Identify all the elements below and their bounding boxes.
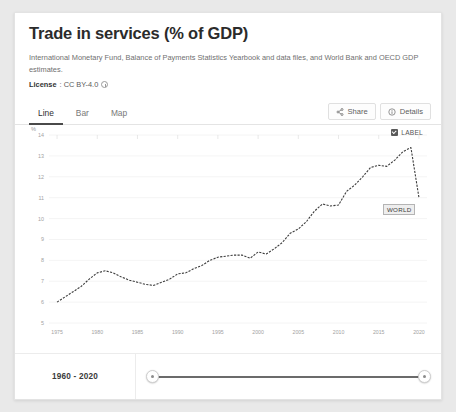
chart-container: % LABEL 141312111098765 1975198019851990… xyxy=(25,125,431,349)
series-label-world: WORLD xyxy=(383,204,416,215)
svg-text:11: 11 xyxy=(38,195,44,201)
label-toggle-text: LABEL xyxy=(401,129,423,136)
x-tick-labels: 1975198019851990199520002005201020152020 xyxy=(51,329,425,335)
svg-text:8: 8 xyxy=(41,257,44,263)
info-icon[interactable] xyxy=(101,81,108,88)
grid-lines xyxy=(49,135,427,323)
page-root: Trade in services (% of GDP) Internation… xyxy=(0,0,456,412)
svg-text:2010: 2010 xyxy=(333,329,345,335)
indicator-card: Trade in services (% of GDP) Internation… xyxy=(14,12,442,400)
card-actions: Share Details xyxy=(328,103,431,124)
svg-text:1985: 1985 xyxy=(132,329,144,335)
svg-text:1995: 1995 xyxy=(212,329,224,335)
svg-text:13: 13 xyxy=(38,153,44,159)
slider-handle-end[interactable] xyxy=(418,370,431,383)
details-button[interactable]: Details xyxy=(380,103,431,120)
source-note: International Monetary Fund, Balance of … xyxy=(29,52,427,75)
checkbox-checked-icon[interactable] xyxy=(391,129,398,136)
slider-handle-start[interactable] xyxy=(146,370,159,383)
tab-map[interactable]: Map xyxy=(100,108,138,124)
tab-bar[interactable]: Bar xyxy=(65,108,100,124)
license-row: License : CC BY-4.0 xyxy=(29,80,427,89)
time-range-label: 1960 - 2020 xyxy=(15,372,135,381)
y-axis-unit: % xyxy=(31,126,36,132)
line-chart-svg[interactable]: 141312111098765 197519801985199019952000… xyxy=(25,125,433,349)
svg-text:1990: 1990 xyxy=(172,329,184,335)
svg-text:2015: 2015 xyxy=(373,329,385,335)
share-button[interactable]: Share xyxy=(328,103,376,120)
slider-track[interactable] xyxy=(152,376,425,378)
svg-text:9: 9 xyxy=(41,236,44,242)
y-tick-labels: 141312111098765 xyxy=(38,132,44,326)
time-range-footer: 1960 - 2020 xyxy=(15,353,441,399)
share-label: Share xyxy=(348,107,368,116)
share-icon xyxy=(336,108,344,116)
svg-text:14: 14 xyxy=(38,132,44,138)
svg-text:10: 10 xyxy=(38,216,44,222)
license-value: : CC BY-4.0 xyxy=(60,80,99,89)
info-circle-icon xyxy=(388,108,396,116)
svg-text:2005: 2005 xyxy=(293,329,305,335)
svg-text:6: 6 xyxy=(41,299,44,305)
x-tick-marks xyxy=(57,135,419,139)
svg-text:1975: 1975 xyxy=(51,329,63,335)
page-title: Trade in services (% of GDP) xyxy=(29,23,427,43)
license-label: License xyxy=(29,80,57,89)
svg-text:5: 5 xyxy=(41,320,44,326)
svg-text:2000: 2000 xyxy=(252,329,264,335)
label-toggle[interactable]: LABEL xyxy=(391,129,423,136)
details-label: Details xyxy=(400,107,423,116)
time-range-slider[interactable] xyxy=(146,370,431,384)
view-tabs: Line Bar Map xyxy=(27,108,138,124)
svg-text:7: 7 xyxy=(41,278,44,284)
svg-text:12: 12 xyxy=(38,174,44,180)
svg-text:1980: 1980 xyxy=(91,329,103,335)
svg-text:2020: 2020 xyxy=(413,329,425,335)
view-tabbar: Line Bar Map Share xyxy=(15,99,441,125)
time-range-slider-box xyxy=(135,354,441,399)
card-header: Trade in services (% of GDP) Internation… xyxy=(15,13,441,89)
series-line-world xyxy=(57,148,419,303)
tab-line[interactable]: Line xyxy=(27,108,65,124)
